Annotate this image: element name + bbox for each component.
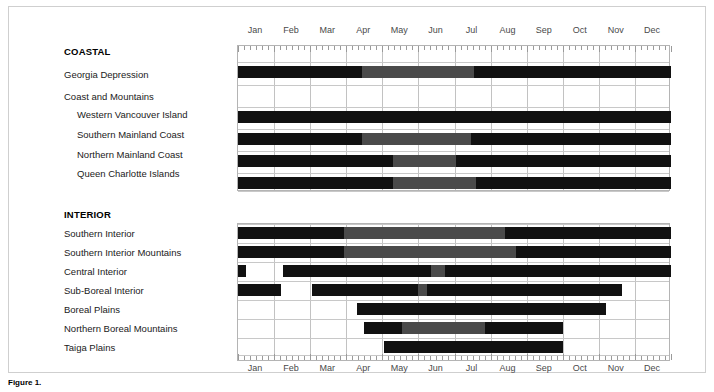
month-label-sep: Sep bbox=[526, 25, 562, 35]
month-label-jan: Jan bbox=[237, 25, 273, 35]
bar-segment-dark bbox=[238, 284, 281, 296]
row-label-georgia-depression: Georgia Depression bbox=[64, 69, 149, 80]
chart-row bbox=[238, 155, 669, 167]
chart-row bbox=[238, 284, 669, 296]
gridline-horizontal bbox=[238, 191, 669, 192]
month-label-feb: Feb bbox=[273, 363, 309, 373]
bar-segment-dark bbox=[456, 155, 671, 167]
month-label-jan: Jan bbox=[237, 363, 273, 373]
bar-segment-dark bbox=[445, 265, 671, 277]
bar-segment-mid bbox=[362, 133, 470, 145]
bar-segment-dark bbox=[505, 227, 671, 239]
month-axis-bottom: JanFebMarAprMayJunJulAugSepOctNovDec bbox=[229, 363, 670, 377]
month-label-aug: Aug bbox=[490, 363, 526, 373]
month-label-jun: Jun bbox=[417, 363, 453, 373]
bar-segment-dark bbox=[357, 303, 606, 315]
chart-row bbox=[238, 303, 669, 315]
bar-segment-dark bbox=[238, 155, 393, 167]
caption-label: Figure 1. bbox=[8, 378, 41, 387]
axis-tick bbox=[671, 46, 672, 52]
row-label-northern-boreal-mountains: Northern Boreal Mountains bbox=[64, 323, 178, 334]
chart-row bbox=[238, 177, 669, 189]
bar-segment-mid bbox=[393, 177, 476, 189]
chart-row bbox=[238, 89, 669, 101]
month-label-aug: Aug bbox=[490, 25, 526, 35]
bar-segment-mid bbox=[418, 284, 427, 296]
chart-row bbox=[238, 227, 669, 239]
bar-segment-dark bbox=[238, 111, 671, 123]
month-label-jul: Jul bbox=[454, 25, 490, 35]
bar-segment-dark bbox=[238, 66, 362, 78]
row-label-boreal-plains: Boreal Plains bbox=[64, 304, 120, 315]
chart-row bbox=[238, 322, 669, 334]
bar-segment-mid bbox=[344, 227, 505, 239]
interior-chart-panel bbox=[237, 223, 670, 361]
figure-container: JanFebMarAprMayJunJulAugSepOctNovDec COA… bbox=[8, 6, 706, 373]
month-label-jul: Jul bbox=[454, 363, 490, 373]
row-label-southern-mainland-coast: Southern Mainland Coast bbox=[77, 129, 184, 140]
month-label-nov: Nov bbox=[598, 363, 634, 373]
chart-row bbox=[238, 265, 669, 277]
row-label-western-vancouver-island: Western Vancouver Island bbox=[77, 109, 188, 120]
row-label-queen-charlotte-islands: Queen Charlotte Islands bbox=[77, 168, 179, 179]
month-label-mar: Mar bbox=[309, 25, 345, 35]
bar-segment-dark bbox=[364, 322, 402, 334]
month-label-mar: Mar bbox=[309, 363, 345, 373]
row-label-sub-boreal-interior: Sub-Boreal Interior bbox=[64, 285, 144, 296]
month-label-dec: Dec bbox=[634, 25, 670, 35]
bar-segment-dark bbox=[238, 246, 344, 258]
group-heading-interior: INTERIOR bbox=[64, 209, 111, 220]
coastal-chart-panel bbox=[237, 45, 670, 191]
month-label-dec: Dec bbox=[634, 363, 670, 373]
figure-caption: Figure 1. bbox=[8, 378, 698, 387]
bar-segment-mid bbox=[362, 66, 474, 78]
bar-segment-dark bbox=[312, 284, 418, 296]
bar-segment-mid bbox=[431, 265, 445, 277]
bar-segment-mid bbox=[393, 155, 456, 167]
month-label-oct: Oct bbox=[562, 363, 598, 373]
row-label-southern-interior-mountains: Southern Interior Mountains bbox=[64, 247, 181, 258]
bar-segment-dark bbox=[471, 133, 671, 145]
month-label-apr: Apr bbox=[345, 25, 381, 35]
chart-row bbox=[238, 66, 669, 78]
month-label-jun: Jun bbox=[417, 25, 453, 35]
chart-row bbox=[238, 111, 669, 123]
axis-tick bbox=[671, 354, 672, 360]
month-label-may: May bbox=[381, 363, 417, 373]
month-label-sep: Sep bbox=[526, 363, 562, 373]
row-label-central-interior: Central Interior bbox=[64, 266, 127, 277]
bar-segment-dark bbox=[238, 133, 362, 145]
bar-segment-dark bbox=[474, 66, 671, 78]
chart-row bbox=[238, 246, 669, 258]
interior-bar-rows bbox=[238, 224, 669, 360]
bar-segment-dark bbox=[238, 227, 344, 239]
month-label-may: May bbox=[381, 25, 417, 35]
chart-row bbox=[238, 341, 669, 353]
bar-segment-mid bbox=[402, 322, 485, 334]
row-label-northern-mainland-coast: Northern Mainland Coast bbox=[77, 149, 183, 160]
bar-segment-dark bbox=[238, 177, 393, 189]
chart-row bbox=[238, 133, 669, 145]
bar-segment-dark bbox=[427, 284, 622, 296]
month-label-apr: Apr bbox=[345, 363, 381, 373]
bar-segment-dark bbox=[238, 265, 246, 277]
group-heading-coastal: COASTAL bbox=[64, 46, 111, 57]
bar-segment-dark bbox=[384, 341, 563, 353]
month-label-feb: Feb bbox=[273, 25, 309, 35]
coastal-bar-rows bbox=[238, 46, 669, 190]
row-label-coast-and-mountains: Coast and Mountains bbox=[64, 91, 154, 102]
bar-segment-dark bbox=[476, 177, 671, 189]
row-label-southern-interior: Southern Interior bbox=[64, 228, 135, 239]
month-label-nov: Nov bbox=[598, 25, 634, 35]
bar-segment-dark bbox=[283, 265, 431, 277]
month-axis-top: JanFebMarAprMayJunJulAugSepOctNovDec bbox=[229, 25, 670, 39]
bar-segment-dark bbox=[516, 246, 671, 258]
row-label-taiga-plains: Taiga Plains bbox=[64, 342, 115, 353]
bar-segment-dark bbox=[485, 322, 563, 334]
month-label-oct: Oct bbox=[562, 25, 598, 35]
bar-segment-mid bbox=[344, 246, 515, 258]
